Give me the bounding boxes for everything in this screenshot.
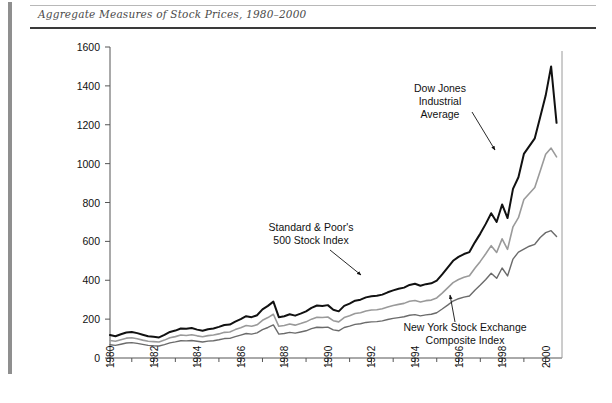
series-line bbox=[110, 66, 557, 337]
annotation-leader-line bbox=[472, 112, 495, 150]
y-axis-tick-label: 200 bbox=[82, 313, 100, 325]
annotation-text-line: 500 Stock Index bbox=[273, 234, 349, 246]
chart-plot-area: 0200400600800100012001400160019801982198… bbox=[0, 0, 612, 403]
x-axis-tick-label: 1998 bbox=[497, 345, 508, 368]
dow-jones-label: Dow JonesIndustrialAverage bbox=[414, 82, 495, 150]
x-axis-tick-label: 1984 bbox=[192, 345, 203, 368]
annotation-leader-line bbox=[330, 250, 361, 275]
y-axis-tick-label: 1400 bbox=[77, 80, 101, 92]
annotation-text-line: Industrial bbox=[419, 95, 462, 107]
x-axis-tick-label: 1996 bbox=[454, 345, 465, 368]
annotation-text-line: New York Stock Exchange bbox=[403, 321, 526, 333]
y-axis-tick-label: 1600 bbox=[77, 41, 101, 53]
x-axis-tick-label: 1982 bbox=[149, 345, 160, 368]
figure-container: Aggregate Measures of Stock Prices, 1980… bbox=[0, 0, 612, 403]
annotation-text-line: Average bbox=[421, 108, 460, 120]
y-axis-tick-label: 800 bbox=[82, 197, 100, 209]
x-axis-tick-label: 1992 bbox=[366, 345, 377, 368]
series-layer bbox=[110, 66, 557, 346]
y-axis-tick-label: 0 bbox=[94, 352, 100, 364]
annotation-leader-line bbox=[450, 295, 455, 322]
y-axis-tick-label: 600 bbox=[82, 235, 100, 247]
x-axis-tick-label: 1986 bbox=[236, 345, 247, 368]
annotations-layer: Dow JonesIndustrialAverageStandard & Poo… bbox=[269, 82, 527, 346]
y-axis-tick-label: 1200 bbox=[77, 119, 101, 131]
annotation-text-line: Composite Index bbox=[426, 334, 506, 346]
annotation-text-line: Dow Jones bbox=[414, 82, 466, 94]
x-axis-tick-label: 1980 bbox=[105, 345, 116, 368]
sp500-label: Standard & Poor's500 Stock Index bbox=[269, 221, 361, 275]
nyse-label: New York Stock ExchangeComposite Index bbox=[403, 295, 526, 346]
annotation-text-line: Standard & Poor's bbox=[269, 221, 354, 233]
x-axis-tick-label: 2000 bbox=[541, 345, 552, 368]
x-axis-tick-label: 1988 bbox=[279, 345, 290, 368]
stock-prices-line-chart: 0200400600800100012001400160019801982198… bbox=[0, 0, 612, 403]
x-axis-tick-label: 1994 bbox=[410, 345, 421, 368]
y-axis-tick-label: 1000 bbox=[77, 158, 101, 170]
y-axis-tick-label: 400 bbox=[82, 274, 100, 286]
x-axis-tick-label: 1990 bbox=[323, 345, 334, 368]
axes-layer bbox=[105, 47, 562, 364]
